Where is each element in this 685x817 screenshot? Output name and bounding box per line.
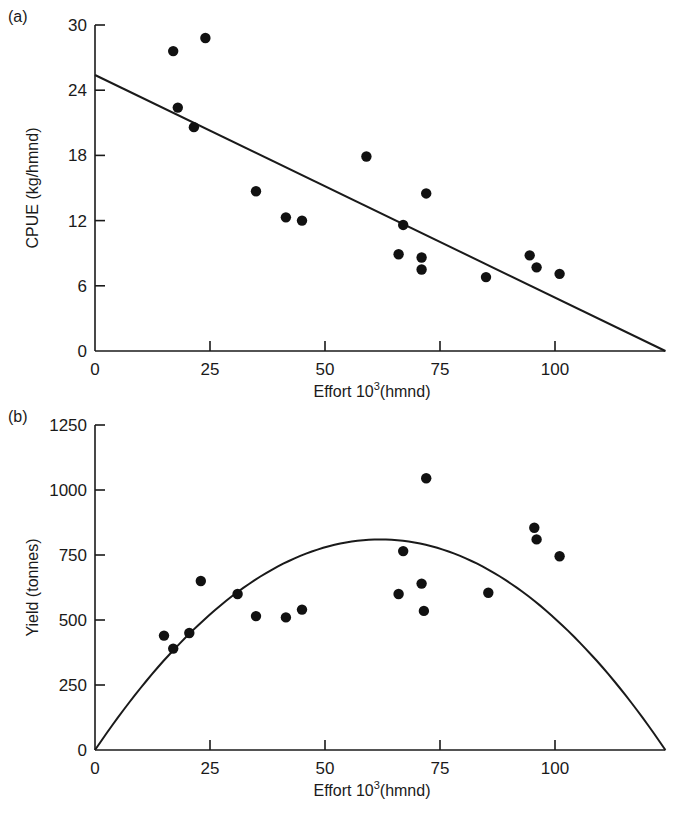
- y-axis-title: Yield (tonnes): [24, 538, 41, 636]
- data-point: [281, 612, 291, 622]
- data-point: [168, 643, 178, 653]
- data-point: [393, 249, 403, 259]
- data-point: [200, 33, 210, 43]
- data-point: [361, 151, 371, 161]
- data-point: [297, 604, 307, 614]
- y-tick-label: 750: [59, 546, 87, 565]
- data-point: [481, 272, 491, 282]
- x-tick-label: 0: [90, 759, 99, 778]
- data-point: [531, 262, 541, 272]
- x-tick-label: 50: [316, 759, 335, 778]
- x-tick-label: 100: [541, 759, 569, 778]
- data-point: [416, 578, 426, 588]
- x-tick-label: 75: [431, 360, 450, 379]
- data-point: [421, 188, 431, 198]
- data-point: [251, 611, 261, 621]
- y-tick-label: 12: [68, 212, 87, 231]
- data-point: [173, 102, 183, 112]
- x-tick-label: 100: [541, 360, 569, 379]
- chart-panel-a: (a)06121824300255075100Effort 103(hmnd)C…: [8, 8, 665, 400]
- y-tick-label: 24: [68, 81, 87, 100]
- chart-figure: (a)06121824300255075100Effort 103(hmnd)C…: [0, 0, 685, 817]
- data-point: [529, 523, 539, 533]
- y-tick-label: 18: [68, 146, 87, 165]
- data-point: [196, 576, 206, 586]
- y-tick-label: 0: [78, 741, 87, 760]
- regression-line: [95, 75, 665, 351]
- x-tick-label: 25: [201, 759, 220, 778]
- y-tick-label: 500: [59, 611, 87, 630]
- data-point: [184, 628, 194, 638]
- data-point: [525, 250, 535, 260]
- data-point: [297, 215, 307, 225]
- data-point: [483, 588, 493, 598]
- y-tick-label: 1250: [49, 416, 87, 435]
- data-point: [419, 606, 429, 616]
- x-axis-title: Effort 103(hmnd): [314, 380, 431, 400]
- y-axis-title: CPUE (kg/hmnd): [24, 128, 41, 249]
- panel-label: (b): [8, 408, 28, 425]
- data-point: [416, 264, 426, 274]
- data-point: [251, 186, 261, 196]
- data-point: [189, 122, 199, 132]
- chart-panel-b: (b)0250500750100012500255075100Effort 10…: [8, 408, 665, 799]
- y-tick-label: 1000: [49, 481, 87, 500]
- data-point: [531, 534, 541, 544]
- x-tick-label: 0: [90, 360, 99, 379]
- x-axis-title: Effort 103(hmnd): [314, 779, 431, 799]
- data-point: [554, 269, 564, 279]
- data-point: [281, 212, 291, 222]
- data-point: [168, 46, 178, 56]
- yield-curve: [95, 539, 665, 750]
- data-point: [416, 252, 426, 262]
- y-tick-label: 30: [68, 16, 87, 35]
- data-point: [398, 546, 408, 556]
- data-point: [398, 220, 408, 230]
- x-tick-label: 50: [316, 360, 335, 379]
- data-point: [232, 589, 242, 599]
- data-point: [159, 630, 169, 640]
- x-tick-label: 75: [431, 759, 450, 778]
- y-tick-label: 0: [78, 342, 87, 361]
- data-point: [393, 589, 403, 599]
- data-point: [421, 473, 431, 483]
- panel-label: (a): [8, 8, 28, 25]
- y-tick-label: 6: [78, 277, 87, 296]
- y-tick-label: 250: [59, 676, 87, 695]
- x-tick-label: 25: [201, 360, 220, 379]
- data-point: [554, 551, 564, 561]
